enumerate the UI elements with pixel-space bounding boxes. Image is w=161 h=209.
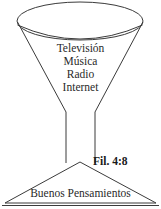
funnel-diagram-artwork: [0, 0, 161, 209]
inflow-label-television: Televisión: [0, 43, 161, 55]
inflow-label-radio: Radio: [0, 69, 161, 81]
funnel-rim-inner-curve: [18, 25, 143, 39]
bible-verse-reference: Fil. 4:8: [93, 156, 128, 168]
outcome-label-buenos-pensamientos: Buenos Pensamientos: [0, 188, 161, 200]
funnel-rim-outer-ellipse: [17, 2, 143, 40]
inflow-label-internet: Internet: [0, 82, 161, 94]
diagram-canvas: Televisión Música Radio Internet Fil. 4:…: [0, 0, 161, 209]
inflow-label-musica: Música: [0, 56, 161, 68]
